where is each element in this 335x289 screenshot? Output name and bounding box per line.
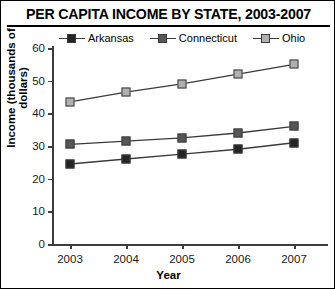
- legend-box: [67, 34, 76, 43]
- legend-item-arkansas[interactable]: Arkansas: [59, 32, 134, 44]
- legend-marker-square-icon: [253, 33, 279, 44]
- chart-figure: PER CAPITA INCOME BY STATE, 2003-2007 Ar…: [0, 0, 335, 289]
- x-tick-label: 2003: [47, 253, 93, 265]
- data-point-ohio-2004: [122, 88, 131, 97]
- legend-box: [158, 34, 167, 43]
- x-axis-label: Year: [1, 269, 335, 281]
- data-point-arkansas-2004: [122, 155, 131, 164]
- y-tick-mark: [48, 244, 53, 246]
- data-point-connecticut-2004: [122, 137, 131, 146]
- legend-label-ohio: Ohio: [282, 32, 305, 44]
- y-tick-mark: [48, 48, 53, 50]
- chart-legend: Arkansas Connecticut Ohio: [59, 30, 331, 46]
- x-tick-mark: [126, 244, 128, 249]
- y-tick-mark: [48, 113, 53, 115]
- legend-item-connecticut[interactable]: Connecticut: [150, 32, 237, 44]
- data-point-connecticut-2007: [290, 122, 299, 131]
- y-tick-label: 10: [23, 205, 45, 217]
- title-divider: [7, 25, 330, 27]
- data-point-connecticut-2005: [178, 133, 187, 142]
- y-tick-mark: [48, 81, 53, 83]
- data-point-ohio-2007: [290, 60, 299, 69]
- data-point-ohio-2006: [234, 70, 243, 79]
- y-axis-label: Income (thousands of dollars): [5, 8, 29, 168]
- x-tick-mark: [182, 244, 184, 249]
- legend-label-arkansas: Arkansas: [88, 32, 134, 44]
- legend-marker-square-icon: [59, 33, 85, 44]
- data-point-connecticut-2003: [66, 140, 75, 149]
- x-axis-line: [52, 244, 328, 246]
- x-tick-mark: [294, 244, 296, 249]
- data-point-arkansas-2005: [178, 150, 187, 159]
- x-tick-label: 2006: [215, 253, 261, 265]
- y-tick-mark: [48, 146, 53, 148]
- y-tick-label: 0: [23, 238, 45, 250]
- x-tick-mark: [70, 244, 72, 249]
- legend-item-ohio[interactable]: Ohio: [253, 32, 305, 44]
- data-point-ohio-2003: [66, 97, 75, 106]
- data-point-ohio-2005: [178, 79, 187, 88]
- data-point-connecticut-2006: [234, 128, 243, 137]
- x-tick-label: 2004: [103, 253, 149, 265]
- y-tick-mark: [48, 211, 53, 213]
- data-point-arkansas-2006: [234, 145, 243, 154]
- x-tick-mark: [238, 244, 240, 249]
- legend-box: [261, 34, 270, 43]
- legend-marker-square-icon: [150, 33, 176, 44]
- x-tick-label: 2007: [271, 253, 317, 265]
- y-tick-mark: [48, 179, 53, 181]
- x-tick-label: 2005: [159, 253, 205, 265]
- data-point-arkansas-2003: [66, 159, 75, 168]
- data-point-arkansas-2007: [290, 138, 299, 147]
- legend-label-connecticut: Connecticut: [179, 32, 237, 44]
- chart-title: PER CAPITA INCOME BY STATE, 2003-2007: [1, 6, 335, 22]
- y-tick-label: 20: [23, 173, 45, 185]
